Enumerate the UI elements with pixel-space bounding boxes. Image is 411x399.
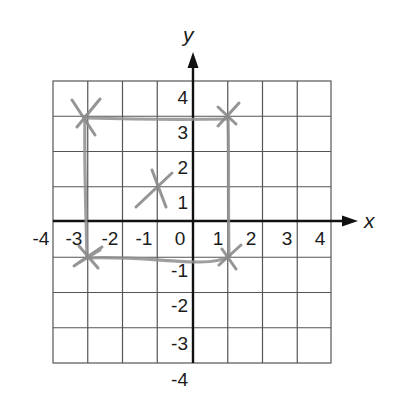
- svg-text:3: 3: [177, 122, 188, 143]
- svg-text:2: 2: [177, 157, 188, 178]
- x-tick-labels: -4 -3 -2 -1 0 1 2 3 4: [33, 228, 326, 249]
- svg-text:1: 1: [177, 192, 188, 213]
- svg-text:2: 2: [246, 228, 257, 249]
- svg-text:4: 4: [315, 228, 326, 249]
- svg-text:0: 0: [175, 228, 186, 249]
- svg-text:-4: -4: [171, 369, 188, 390]
- x-axis-arrow-icon: [342, 216, 358, 227]
- axes: [53, 66, 346, 363]
- svg-text:-4: -4: [33, 228, 50, 249]
- y-axis-label: y: [181, 23, 195, 46]
- svg-text:3: 3: [282, 228, 293, 249]
- svg-text:4: 4: [177, 87, 188, 108]
- svg-text:-2: -2: [102, 228, 119, 249]
- svg-text:-1: -1: [136, 228, 153, 249]
- svg-text:-2: -2: [171, 295, 188, 316]
- x-axis-label: x: [363, 209, 376, 232]
- x-marker-icon: [136, 170, 172, 207]
- coordinate-plane: x y -4 -3 -2 -1 0 1 2 3 4 4 3 2 1 -1 -2 …: [0, 0, 411, 399]
- y-axis-arrow-icon: [188, 52, 199, 68]
- svg-text:-3: -3: [171, 333, 188, 354]
- svg-text:1: 1: [213, 228, 224, 249]
